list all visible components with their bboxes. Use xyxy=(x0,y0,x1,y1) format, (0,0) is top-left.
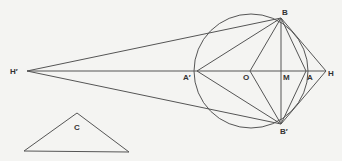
geometry-diagram: H′ B B′ A′ O M A H C xyxy=(0,0,342,161)
line-o-b xyxy=(250,18,281,71)
label-b-prime: B′ xyxy=(280,127,288,136)
label-o: O xyxy=(243,73,249,82)
label-h: H xyxy=(328,69,334,78)
label-m: M xyxy=(283,73,290,82)
label-h-prime: H′ xyxy=(10,67,18,76)
label-c: C xyxy=(74,123,80,132)
line-h-b xyxy=(281,18,326,71)
line-o-b-prime xyxy=(250,71,281,124)
line-a-prime-b-prime xyxy=(197,71,281,124)
triangle-c xyxy=(24,113,129,152)
line-a-b xyxy=(281,18,306,71)
label-a-prime: A′ xyxy=(183,73,191,82)
label-a: A xyxy=(307,73,313,82)
line-a-prime-b xyxy=(197,18,281,71)
label-b: B xyxy=(282,8,288,17)
line-h-prime-b xyxy=(27,18,281,71)
